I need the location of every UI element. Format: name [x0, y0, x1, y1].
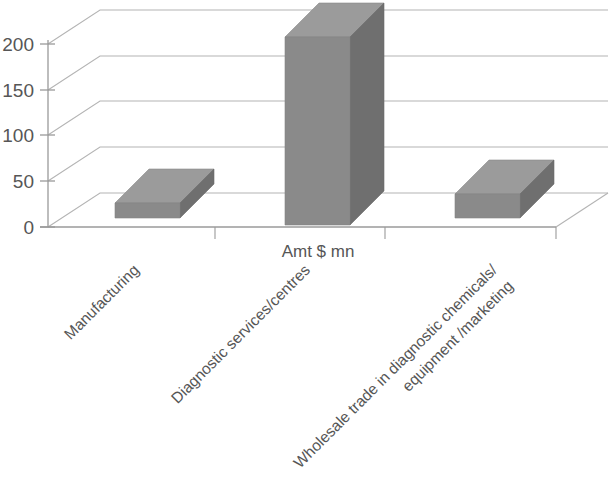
y-tick-label-0: 0: [23, 217, 34, 238]
category-axis-label: Amt $ mn: [282, 242, 355, 261]
y-axis-tick-labels: 200 150 100 50 0: [2, 34, 34, 238]
bar-wholesale-trade-front: [455, 194, 520, 218]
category-label-wholesale-trade-line1: Wholesale trade in diagnostic chemicals/: [290, 261, 501, 472]
bar-wholesale-trade[interactable]: [455, 160, 554, 218]
chart-canvas: 200 150 100 50 0 Amt $ mn: [0, 0, 616, 495]
bar-chart: 200 150 100 50 0 Amt $ mn: [0, 0, 616, 495]
y-tick-label-50: 50: [13, 171, 34, 192]
bar-diagnostic-services-side: [350, 3, 384, 225]
category-label-diagnostic-services: Diagnostic services/centres: [168, 261, 314, 407]
floor-right-edge: [556, 193, 608, 227]
y-tick-label-150: 150: [2, 80, 34, 101]
bar-diagnostic-services[interactable]: [285, 3, 384, 225]
y-tick-label-100: 100: [2, 125, 34, 146]
category-tick-labels: Manufacturing Diagnostic services/centre…: [61, 261, 516, 472]
bar-manufacturing-front: [115, 203, 180, 218]
bar-manufacturing[interactable]: [115, 169, 214, 218]
y-tick-label-200: 200: [2, 34, 34, 55]
category-label-manufacturing: Manufacturing: [61, 261, 142, 342]
bar-diagnostic-services-front: [285, 37, 350, 225]
